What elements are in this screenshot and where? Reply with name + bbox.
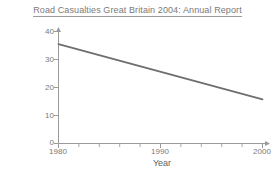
x-axis-arrow-icon	[265, 141, 270, 146]
chart-figure: Road Casualties Great Britain 2004: Annu…	[0, 0, 275, 175]
plot-area	[0, 0, 275, 175]
data-series-fatalities	[59, 44, 263, 99]
x-axis	[59, 141, 271, 148]
